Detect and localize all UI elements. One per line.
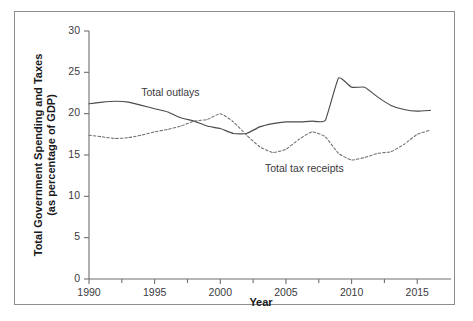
y-tick-label-20: 20: [68, 106, 80, 118]
y-tick-label-10: 10: [68, 189, 80, 201]
y-tick-label-25: 25: [68, 65, 80, 77]
x-tick-label-1990: 1990: [77, 286, 101, 298]
series-annotation-total-tax-receipts: Total tax receipts: [265, 162, 344, 174]
x-tick-label-1995: 1995: [143, 286, 167, 298]
y-tick-label-0: 0: [74, 272, 80, 284]
chart-plot-area: 051015202530199019952000200520102015Year…: [15, 12, 456, 306]
series-annotation-total-outlays: Total outlays: [141, 86, 199, 98]
x-tick-label-2015: 2015: [406, 286, 430, 298]
y-tick-label-30: 30: [68, 24, 80, 36]
figure-caption-sliver: [16, 309, 456, 320]
x-tick-label-2000: 2000: [209, 286, 233, 298]
y-axis-title: Total Government Spending and Taxes(as p…: [32, 54, 57, 257]
series-line-total-outlays: [89, 78, 430, 134]
x-axis-title: Year: [249, 296, 273, 306]
figure-frame: 051015202530199019952000200520102015Year…: [14, 11, 455, 305]
y-tick-label-15: 15: [68, 148, 80, 160]
x-tick-label-2010: 2010: [340, 286, 364, 298]
series-line-total-tax-receipts: [89, 114, 430, 160]
x-tick-label-2005: 2005: [274, 286, 298, 298]
y-tick-label-5: 5: [74, 230, 80, 242]
